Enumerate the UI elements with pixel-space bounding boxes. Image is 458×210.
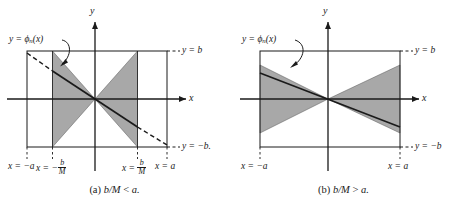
panel-a-plot: y x y = ϕn(x) y = b y = −b. x = −a x = −… <box>0 0 229 182</box>
panel-b: y x y = ϕn(x) y = b y = −b x = −a x = a … <box>229 0 458 210</box>
panel-b-caption-prefix: (b) <box>318 184 330 195</box>
tick-symbol: a <box>403 161 408 171</box>
tick-lhs: x = <box>388 161 403 171</box>
tick-lhs: x = − <box>241 161 263 171</box>
panel-b-top-line-label: y = b <box>415 46 435 56</box>
panel-b-curve-label: y = ϕn(x) <box>242 35 276 45</box>
panel-b-plot: y x y = ϕn(x) y = b y = −b x = −a x = a <box>229 0 458 182</box>
panel-b-x-tick-label-a: x = a <box>388 162 408 172</box>
panel-a-caption: (a) b/M < a. <box>0 184 229 195</box>
panel-a: y x y = ϕn(x) y = b y = −b. x = −a x = −… <box>0 0 229 210</box>
panel-a-caption-tail: a. <box>132 184 140 195</box>
y-axis-arrow-icon <box>92 22 98 29</box>
panel-b-bottom-line-label: y = −b <box>415 142 442 152</box>
tick-fraction-denominator: M <box>58 168 67 176</box>
panel-b-curve-label-lhs: y = <box>242 34 257 44</box>
panel-a-curve-label-arg: (x) <box>33 34 44 44</box>
panel-a-x-axis-label: x <box>189 93 193 103</box>
panel-b-caption-relation: > <box>353 184 359 195</box>
panel-a-x-tick-label-minus-a: x = −a <box>8 162 35 172</box>
tick-lhs: x = <box>122 163 137 173</box>
panel-b-curve-label-arg: (x) <box>266 34 277 44</box>
tick-lhs: x = − <box>36 163 58 173</box>
panel-a-x-tick-label-a: x = a <box>155 162 175 172</box>
panel-b-caption: (b) b/M > a. <box>229 184 458 195</box>
figure-container: y x y = ϕn(x) y = b y = −b. x = −a x = −… <box>0 0 458 210</box>
tick-symbol: a <box>30 161 35 171</box>
tick-fraction: bM <box>137 159 146 176</box>
panel-b-y-axis-label: y <box>323 6 327 16</box>
x-axis-arrow-icon <box>179 96 186 102</box>
panel-a-caption-prefix: (a) <box>89 184 101 195</box>
panel-a-curve-label: y = ϕn(x) <box>9 35 43 45</box>
panel-a-x-tick-label-minus-b-over-M: x = −bM <box>36 159 66 176</box>
phi-curve-dashed-right <box>138 127 168 145</box>
tick-fraction: bM <box>58 159 67 176</box>
panel-a-x-tick-label-b-over-M: x = bM <box>122 159 146 176</box>
panel-b-x-tick-label-minus-a: x = −a <box>241 162 268 172</box>
phi-curve-dashed-left <box>27 53 53 71</box>
y-axis-arrow-icon <box>325 22 331 29</box>
tick-fraction-denominator: M <box>137 168 146 176</box>
panel-a-bottom-line-label: y = −b. <box>182 142 211 152</box>
curve-label-arrow-icon <box>293 40 303 66</box>
panel-a-curve-label-lhs: y = <box>9 34 24 44</box>
panel-a-caption-relation: < <box>123 184 129 195</box>
panel-b-svg <box>229 0 458 182</box>
tick-lhs: x = − <box>8 161 30 171</box>
panel-b-x-axis-label: x <box>422 93 426 103</box>
curve-label-arrowhead-icon <box>290 61 298 68</box>
panel-b-caption-tail: a. <box>361 184 369 195</box>
x-axis-arrow-icon <box>412 96 419 102</box>
tick-symbol: a <box>263 161 268 171</box>
panel-b-caption-expr: b/M <box>333 184 350 195</box>
panel-a-y-axis-label: y <box>90 6 94 16</box>
tick-symbol: a <box>170 161 175 171</box>
panel-a-top-line-label: y = b <box>182 46 202 56</box>
panel-a-svg <box>0 0 229 182</box>
panel-a-caption-expr: b/M <box>104 184 121 195</box>
tick-lhs: x = <box>155 161 170 171</box>
